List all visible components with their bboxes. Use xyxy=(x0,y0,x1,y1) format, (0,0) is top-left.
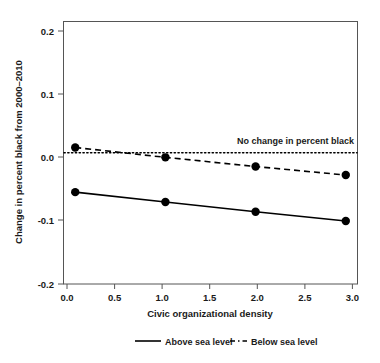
y-tick-label: 0.0 xyxy=(41,152,54,163)
data-point xyxy=(342,171,350,179)
data-point xyxy=(71,188,79,196)
x-tick-label: 0.0 xyxy=(60,292,73,303)
y-axis-title: Change in percent black from 2000–2010 xyxy=(13,60,24,244)
reference-line-annotation: No change in percent black xyxy=(237,136,355,146)
y-tick-label: 0.2 xyxy=(41,26,54,37)
y-tick-label: 0.1 xyxy=(41,89,55,100)
data-point xyxy=(161,153,169,161)
data-point xyxy=(251,162,259,170)
x-axis-ticks xyxy=(67,284,352,289)
line-chart: 0.2 0.1 0.0 -0.1 -0.2 0.0 0.5 1.0 1.5 2.… xyxy=(0,0,380,363)
y-axis-ticks xyxy=(58,31,64,284)
y-tick-label: -0.2 xyxy=(38,279,54,290)
legend-label-below-sea-level[interactable]: Below sea level xyxy=(251,337,318,347)
x-axis-tick-labels: 0.0 0.5 1.0 1.5 2.0 2.5 3.0 xyxy=(60,292,359,303)
x-tick-label: 1.0 xyxy=(155,292,168,303)
series-line-below-sea-level xyxy=(75,148,346,176)
x-tick-label: 1.5 xyxy=(203,292,217,303)
x-tick-label: 2.0 xyxy=(251,292,264,303)
y-tick-label: -0.1 xyxy=(38,215,55,226)
series-line-above-sea-level xyxy=(75,192,346,221)
x-axis-title: Civic organizational density xyxy=(147,308,273,319)
data-point xyxy=(71,143,79,151)
data-point xyxy=(161,198,169,206)
x-tick-label: 3.0 xyxy=(346,292,359,303)
y-axis-tick-labels: 0.2 0.1 0.0 -0.1 -0.2 xyxy=(38,26,55,290)
data-point xyxy=(251,208,259,216)
legend-label-above-sea-level[interactable]: Above sea level xyxy=(165,337,233,347)
chart-figure: 0.2 0.1 0.0 -0.1 -0.2 0.0 0.5 1.0 1.5 2.… xyxy=(0,0,380,363)
chart-legend: Above sea level Below sea level xyxy=(135,337,318,347)
x-tick-label: 0.5 xyxy=(108,292,122,303)
data-point xyxy=(342,217,350,225)
x-tick-label: 2.5 xyxy=(298,292,312,303)
